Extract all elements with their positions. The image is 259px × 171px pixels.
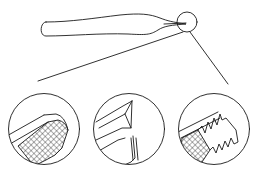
magnifier-circle: [177, 12, 197, 32]
detail-circle-2: [94, 94, 165, 169]
callout-line-right: [190, 32, 228, 84]
detail-circle-1: [5, 94, 80, 167]
callout-line-left: [38, 32, 183, 81]
diagram-canvas: [0, 0, 259, 171]
detail-circle-3: [178, 94, 250, 167]
tweezers-body: [41, 14, 186, 36]
tweezers-diagram: [0, 0, 259, 171]
